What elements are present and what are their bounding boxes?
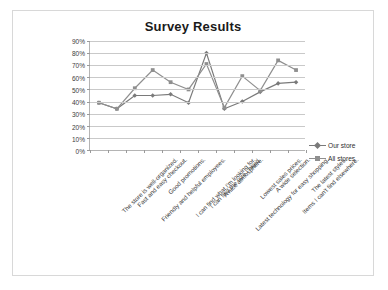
x-axis-category-labels: The store is well-organized.Fast and eas…	[89, 153, 305, 273]
y-axis-tick-mark	[87, 89, 90, 90]
y-axis-tick-labels: 90%80%70%60%50%40%30%20%10%0%	[59, 41, 87, 151]
chart-legend: Our storeAll stores	[309, 139, 375, 165]
legend-label: Our store	[328, 142, 355, 149]
gridline	[90, 65, 305, 66]
data-point-marker	[222, 106, 226, 110]
data-point-marker	[151, 68, 155, 72]
data-point-marker	[276, 81, 281, 86]
gridline	[90, 102, 305, 103]
data-point-marker	[294, 80, 299, 85]
x-axis-tick-mark	[306, 150, 307, 153]
data-point-marker	[294, 68, 298, 72]
y-axis-tick-mark	[87, 126, 90, 127]
y-axis-tick-label: 60%	[72, 74, 85, 81]
y-axis-tick-label: 80%	[72, 50, 85, 57]
y-axis-tick-label: 90%	[72, 38, 85, 45]
legend-item-all-stores[interactable]: All stores	[309, 152, 375, 165]
data-point-marker	[276, 58, 280, 62]
data-point-marker	[115, 107, 119, 111]
y-axis-tick-label: 30%	[72, 111, 85, 118]
gridline	[90, 41, 305, 42]
y-axis-tick-label: 0%	[76, 148, 85, 155]
gridline	[90, 53, 305, 54]
gridline	[90, 114, 305, 115]
gridline	[90, 138, 305, 139]
gridline	[90, 77, 305, 78]
y-axis-tick-label: 50%	[72, 86, 85, 93]
y-axis-tick-label: 10%	[72, 135, 85, 142]
data-point-marker	[169, 80, 173, 84]
legend-item-our-store[interactable]: Our store	[309, 139, 375, 152]
y-axis-tick-label: 40%	[72, 99, 85, 106]
gridline	[90, 126, 305, 127]
x-axis-category-label: A nice atmosphere.	[222, 156, 264, 198]
y-axis-tick-mark	[87, 114, 90, 115]
y-axis-tick-mark	[87, 41, 90, 42]
series-lines	[90, 41, 305, 150]
y-axis-tick-mark	[87, 77, 90, 78]
y-axis-tick-label: 20%	[72, 123, 85, 130]
y-axis-tick-mark	[87, 53, 90, 54]
plot-wrapper: 90%80%70%60%50%40%30%20%10%0%	[59, 41, 305, 151]
square-marker-icon	[309, 154, 326, 163]
plot-area	[89, 41, 305, 151]
y-axis-tick-mark	[87, 102, 90, 103]
data-point-marker	[150, 93, 155, 98]
y-axis-tick-mark	[87, 138, 90, 139]
diamond-marker-icon	[309, 141, 326, 150]
chart-frame: Survey Results 90%80%70%60%50%40%30%20%1…	[12, 10, 374, 276]
legend-label: All stores	[328, 155, 355, 162]
chart-title: Survey Results	[13, 19, 373, 34]
y-axis-tick-mark	[87, 65, 90, 66]
data-point-marker	[168, 92, 173, 97]
y-axis-tick-label: 70%	[72, 62, 85, 69]
gridline	[90, 89, 305, 90]
